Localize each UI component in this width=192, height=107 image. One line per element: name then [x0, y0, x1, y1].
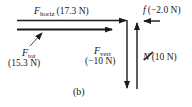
f-vert-value: (−10 N): [85, 56, 115, 67]
f-horiz-label: Fhoriz(17.3 N): [33, 5, 89, 18]
f-tot-value: (15.3 N): [8, 58, 40, 69]
f-tot-pointer-icon: [30, 33, 42, 46]
force-diagram: Fhoriz(17.3 N) Ftot (15.3 N) Fvert (−10 …: [0, 0, 192, 107]
figure-caption: (b): [73, 86, 85, 98]
friction-label: f(−2.0 N): [143, 4, 181, 16]
normal-label: N(10 N): [142, 51, 177, 63]
